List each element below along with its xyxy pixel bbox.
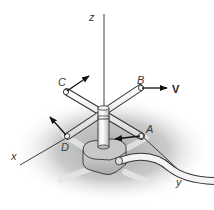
point-label-a: A bbox=[145, 123, 153, 135]
point-label-c: C bbox=[58, 76, 66, 88]
point-label-b: B bbox=[137, 74, 144, 86]
shaft bbox=[98, 106, 109, 149]
z-axis-label: z bbox=[88, 11, 95, 23]
velocity-arrow-c bbox=[67, 76, 89, 91]
sprinkler-diagram: z x y C B D A V bbox=[0, 0, 214, 210]
point-label-d: D bbox=[61, 141, 69, 153]
velocity-label: V bbox=[172, 83, 180, 95]
x-axis-label: x bbox=[10, 150, 17, 162]
